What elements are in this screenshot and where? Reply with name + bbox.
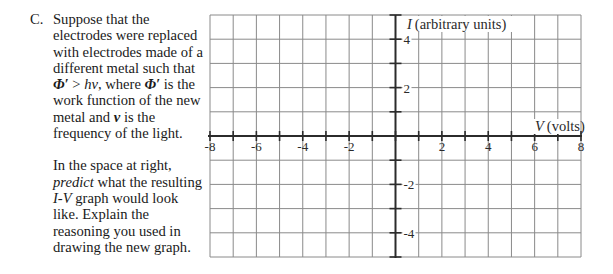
x-tick-label: -4 [297,139,308,154]
x-tick-label: -6 [251,139,262,154]
y-tick-label: -2 [404,177,415,192]
y-axis-label: I(arbitrary units) [405,16,517,33]
y-axis-unit: (arbitrary units) [415,16,507,33]
x-tick-label: 6 [531,139,538,154]
y-tick-label: 4 [404,32,411,47]
x-tick-label: -8 [205,139,216,154]
x-tick-label: 8 [578,139,585,154]
x-axis-label: V(volts) [533,118,585,135]
x-tick-label: -2 [344,139,355,154]
x-tick-label: 2 [439,139,446,154]
axes [208,15,582,258]
x-axis-unit: (volts) [547,118,585,135]
x-tick-label: 4 [485,139,492,154]
svg-text:I(arbitrary units): I(arbitrary units) [406,16,506,33]
y-tick-label: 2 [404,81,411,96]
iv-graph[interactable]: -8-6-4-2246842-2-4 I(arbitrary units) V(… [0,0,613,274]
y-tick-label: -4 [404,226,415,241]
svg-text:V(volts): V(volts) [535,118,585,135]
